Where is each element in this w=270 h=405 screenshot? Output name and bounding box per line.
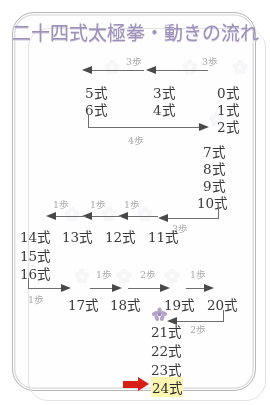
step-label-bot-2: 2歩 xyxy=(140,267,156,281)
node-21: 21式 xyxy=(151,321,181,341)
node-23: 23式 xyxy=(151,359,181,379)
node-17: 17式 xyxy=(68,294,98,314)
node-2: 2式 xyxy=(217,116,239,136)
connector-10-to-11 xyxy=(158,207,220,225)
step-label-end-two: 2歩 xyxy=(190,322,206,336)
step-label-mid-3: 1歩 xyxy=(124,197,140,211)
node-11: 11式 xyxy=(148,226,178,246)
arrow-12-to-13 xyxy=(82,212,122,221)
connector-6-to-7 xyxy=(88,114,213,136)
step-label-mid-1: 1歩 xyxy=(53,197,69,211)
node-14: 14式 xyxy=(20,226,50,246)
red-pointer-arrow-icon xyxy=(123,377,149,392)
node-12: 12式 xyxy=(105,226,135,246)
page-title: 二十四式太極拳・動きの流れ xyxy=(0,18,270,45)
node-24-highlighted: 24式 xyxy=(151,377,183,397)
step-label-bot-3: 1歩 xyxy=(190,267,206,281)
step-label-four: 4歩 xyxy=(128,133,144,147)
node-18: 18式 xyxy=(110,294,140,314)
arrow-11-to-12 xyxy=(118,212,158,221)
flower-ornament-icon xyxy=(151,307,168,322)
node-15: 15式 xyxy=(20,245,50,265)
arrow-18-to-19 xyxy=(128,284,170,293)
arrow-0-to-3 xyxy=(146,66,208,75)
step-label-bot-1: 1歩 xyxy=(96,267,112,281)
arrow-17-to-18 xyxy=(90,284,122,293)
diagram-page: 二十四式太極拳・動きの流れ 3歩 3歩 5式 3式 0式 6式 4式 1式 2式… xyxy=(0,0,270,405)
arrow-19-to-20 xyxy=(186,284,214,293)
node-13: 13式 xyxy=(62,226,92,246)
step-label-bot-0: 1歩 xyxy=(28,292,44,306)
arrow-3-to-5 xyxy=(82,66,144,75)
arrow-13-to-14 xyxy=(46,212,86,221)
node-22: 22式 xyxy=(151,340,181,360)
step-label-mid-2: 1歩 xyxy=(90,197,106,211)
